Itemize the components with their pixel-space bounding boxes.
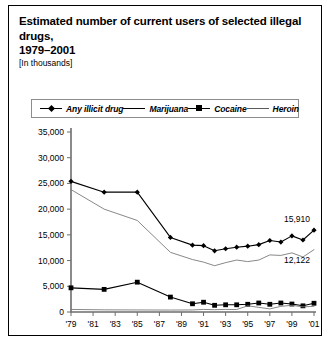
y-tick-label: 35,000 [38,127,64,137]
x-tick-label: '99 [286,319,297,329]
chart-title-line-1: Estimated number of current users of sel… [19,14,311,43]
y-tick-label: 0 [59,307,64,317]
chart-svg: 35,00030,00025,00020,00015,00010,0005,00… [9,124,321,336]
legend-item-heroin[interactable]: Heroin [247,104,299,114]
data-marker-diamond [102,190,107,195]
series-line-marijuana [71,190,314,266]
x-tick-label: '81 [88,319,99,329]
legend-item-any-illicit-drug[interactable]: Any illicit drug [40,104,123,114]
data-marker-square [301,303,306,308]
x-tick-label: '83 [110,319,121,329]
y-tick-label: 30,000 [38,153,64,163]
x-tick-label: '01 [308,319,319,329]
data-marker-square [223,302,228,307]
x-tick-label: '95 [242,319,253,329]
y-axis-ticks: 35,00030,00025,00020,00015,00010,0005,00… [38,127,71,317]
y-tick-label: 25,000 [38,178,64,188]
data-marker-square [312,301,317,306]
data-marker-diamond [289,233,294,238]
data-marker-diamond [256,242,261,247]
chart-title: Estimated number of current users of sel… [19,14,311,58]
data-marker-square [168,295,173,300]
x-tick-label: '93 [220,319,231,329]
data-marker-square [135,280,140,285]
legend-label-marijuana: Marijuana [149,104,188,114]
x-tick-label: '89 [176,319,187,329]
data-marker-diamond [245,244,250,249]
data-marker-diamond [212,248,217,253]
data-marker-square [267,302,272,307]
chart-title-line-2: 1979–2001 [19,43,311,58]
data-marker-diamond [267,238,272,243]
legend-key-plain-line-icon [123,104,145,113]
legend-label-cocaine: Cocaine [214,104,246,114]
legend-key-diamond-line-icon [40,104,62,113]
y-tick-label: 15,000 [38,230,64,240]
data-marker-square [256,301,261,306]
legend-key-thin-line-icon [247,104,269,113]
y-tick-label: 10,000 [38,256,64,266]
data-series-group [68,179,316,310]
data-marker-square [190,301,195,306]
x-tick-label: '97 [264,319,275,329]
chart-legend: Any illicit drug Marijuana Cocaine Heroi… [31,99,299,118]
data-marker-square [69,285,74,290]
data-marker-square [212,303,217,308]
legend-item-marijuana[interactable]: Marijuana [123,104,188,114]
data-label-15910: 15,910 [284,214,310,224]
legend-item-cocaine[interactable]: Cocaine [188,104,246,114]
data-labels-group: 15,91012,122 [284,214,310,264]
data-marker-square [234,302,239,307]
legend-label-any-illicit-drug: Any illicit drug [66,104,123,114]
legend-key-square-line-icon [188,104,210,113]
x-tick-label: '85 [132,319,143,329]
axis-lines [71,128,316,312]
x-axis-ticks: '79'81'83'85'87'89'91'93'95'97'99'01 [65,312,319,329]
data-marker-diamond [278,239,283,244]
x-tick-label: '79 [65,319,76,329]
x-tick-label: '91 [198,319,209,329]
data-marker-diamond [223,246,228,251]
chart-units-subtitle: [In thousands] [19,58,72,68]
data-marker-square [201,300,206,305]
data-marker-diamond [234,245,239,250]
y-tick-label: 5,000 [43,281,65,291]
y-tick-label: 20,000 [38,204,64,214]
data-marker-square [102,287,107,292]
data-marker-diamond [201,243,206,248]
series-line-any-illicit-drug [71,181,314,250]
data-label-12122: 12,122 [284,255,310,265]
legend-label-heroin: Heroin [273,104,299,114]
figure-panel: Estimated number of current users of sel… [8,5,322,336]
data-marker-square [278,301,283,306]
data-marker-diamond [190,243,195,248]
plot-area: 35,00030,00025,00020,00015,00010,0005,00… [9,124,321,336]
x-tick-label: '87 [154,319,165,329]
